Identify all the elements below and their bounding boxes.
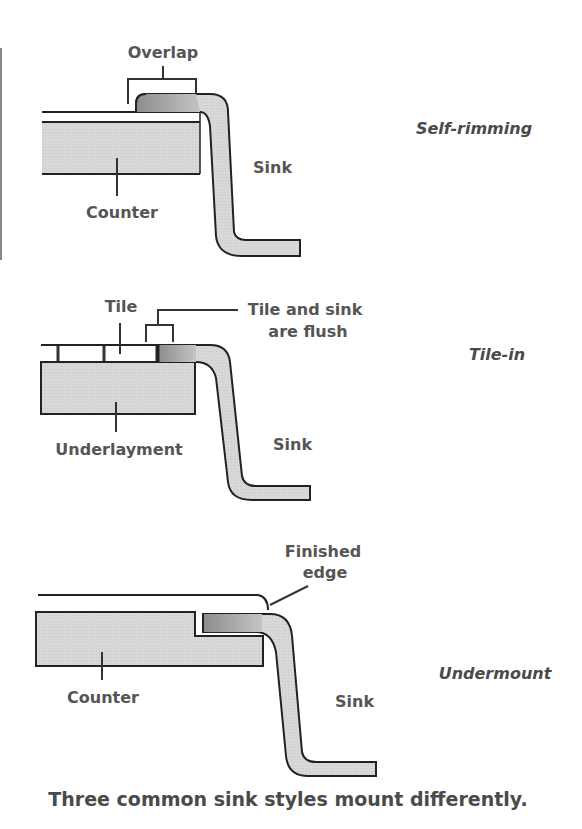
counter-label: Counter	[86, 203, 158, 222]
tile-label: Tile	[105, 297, 138, 316]
self-rimming-diagram: Overlap Sink Counter Self-rimming	[42, 43, 532, 256]
finished-label-line1: Finished	[285, 542, 362, 561]
overlap-label: Overlap	[128, 43, 199, 62]
style-label-tile-in: Tile-in	[469, 345, 525, 364]
sink-label: Sink	[273, 435, 312, 454]
sink-mounting-diagram: Overlap Sink Counter Self-rimming Tile T…	[0, 0, 582, 829]
flush-label-line1: Tile and sink	[248, 300, 363, 319]
style-label-self-rimming: Self-rimming	[416, 119, 532, 138]
style-label-undermount: Undermount	[439, 664, 553, 683]
counter-label: Counter	[67, 688, 139, 707]
finished-label-line2: edge	[303, 563, 348, 582]
sink-label: Sink	[253, 158, 292, 177]
undermount-diagram: Finished edge Counter Sink Undermount	[36, 542, 553, 776]
sink-label: Sink	[335, 692, 374, 711]
tile-in-diagram: Tile Tile and sink are flush Underlaymen…	[41, 297, 525, 500]
underlayment-label: Underlayment	[55, 440, 183, 459]
flush-label-line2: are flush	[268, 322, 347, 341]
figure-caption: Three common sink styles mount different…	[48, 788, 527, 810]
